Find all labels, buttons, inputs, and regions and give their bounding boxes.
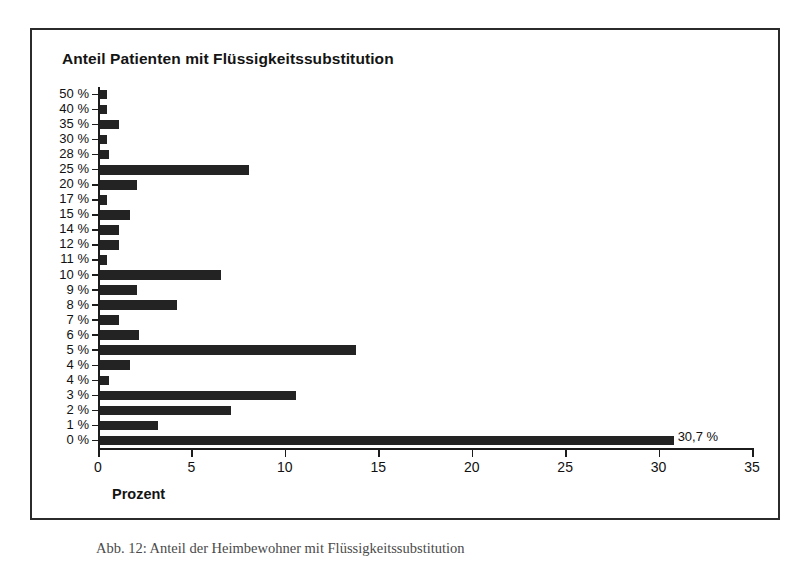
bar — [100, 255, 107, 265]
bar-row: 15 % — [98, 207, 752, 222]
category-label: 50 % — [59, 86, 89, 101]
category-label: 20 % — [59, 176, 89, 191]
category-tick — [92, 289, 98, 291]
chart-frame: Anteil Patienten mit Flüssigkeitssubstit… — [30, 28, 780, 520]
category-label: 7 % — [67, 312, 89, 327]
category-label: 11 % — [60, 251, 89, 266]
value-tick — [285, 450, 287, 457]
bar — [100, 436, 674, 446]
value-tick-label: 35 — [744, 459, 760, 475]
value-tick — [378, 450, 380, 457]
category-tick — [92, 380, 98, 382]
bar-row: 50 % — [98, 87, 752, 102]
bar — [100, 360, 130, 370]
bar — [100, 165, 249, 175]
value-tick — [752, 450, 754, 457]
bar — [100, 406, 231, 416]
value-tick-label: 20 — [464, 459, 480, 475]
category-label: 3 % — [67, 387, 89, 402]
value-tick — [472, 450, 474, 457]
category-label: 0 % — [67, 432, 89, 447]
category-tick — [92, 139, 98, 141]
category-label: 5 % — [67, 342, 89, 357]
x-axis-title: Prozent — [112, 486, 165, 502]
category-tick — [92, 365, 98, 367]
category-label: 14 % — [59, 221, 89, 236]
bar-row: 4 % — [98, 358, 752, 373]
category-label: 6 % — [67, 327, 89, 342]
category-label: 4 % — [67, 357, 89, 372]
category-tick — [92, 229, 98, 231]
category-tick — [92, 259, 98, 261]
category-label: 12 % — [59, 236, 89, 251]
value-tick — [565, 450, 567, 457]
figure-caption: Abb. 12: Anteil der Heimbewohner mit Flü… — [96, 540, 756, 557]
bar-row: 0 %30,7 % — [98, 433, 752, 448]
category-tick — [92, 124, 98, 126]
category-label: 10 % — [59, 267, 89, 282]
bar-row: 7 % — [98, 313, 752, 328]
bar-row: 20 % — [98, 177, 752, 192]
bar — [100, 105, 107, 115]
category-tick — [92, 214, 98, 216]
bar-row: 12 % — [98, 237, 752, 252]
value-tick-label: 5 — [188, 459, 196, 475]
bar-data-label: 30,7 % — [678, 429, 718, 444]
bar — [100, 120, 119, 130]
category-label: 2 % — [67, 402, 89, 417]
category-tick — [92, 94, 98, 96]
value-tick-label: 10 — [277, 459, 293, 475]
value-tick — [191, 450, 193, 457]
bar — [100, 345, 356, 355]
bar — [100, 270, 221, 280]
category-label: 35 % — [59, 116, 89, 131]
bar — [100, 300, 177, 310]
category-tick — [92, 274, 98, 276]
category-label: 28 % — [59, 146, 89, 161]
category-tick — [92, 425, 98, 427]
bar-row: 30 % — [98, 132, 752, 147]
category-tick — [92, 109, 98, 111]
bar-row: 25 % — [98, 162, 752, 177]
bar-row: 10 % — [98, 268, 752, 283]
category-tick — [92, 244, 98, 246]
category-label: 4 % — [67, 372, 89, 387]
chart-title: Anteil Patienten mit Flüssigkeitssubstit… — [62, 50, 394, 68]
bar — [100, 330, 139, 340]
category-label: 40 % — [59, 101, 89, 116]
category-tick — [92, 199, 98, 201]
bar — [100, 150, 109, 160]
value-tick — [98, 450, 100, 457]
bar-row: 28 % — [98, 147, 752, 162]
bar-row: 1 % — [98, 418, 752, 433]
bar — [100, 180, 137, 190]
category-label: 30 % — [59, 131, 89, 146]
bar-row: 17 % — [98, 192, 752, 207]
bar-row: 5 % — [98, 343, 752, 358]
category-tick — [92, 395, 98, 397]
bar — [100, 90, 107, 100]
bar-row: 2 % — [98, 403, 752, 418]
category-tick — [92, 410, 98, 412]
category-tick — [92, 319, 98, 321]
bar-row: 4 % — [98, 373, 752, 388]
bar-row: 11 % — [98, 252, 752, 267]
category-label: 9 % — [67, 282, 89, 297]
category-label: 8 % — [67, 297, 89, 312]
category-tick — [92, 154, 98, 156]
bar — [100, 195, 107, 205]
value-tick-label: 15 — [370, 459, 386, 475]
category-label: 15 % — [59, 206, 89, 221]
value-tick — [659, 450, 661, 457]
bar — [100, 210, 130, 220]
category-tick — [92, 440, 98, 442]
bar-row: 14 % — [98, 222, 752, 237]
category-tick — [92, 169, 98, 171]
bar — [100, 135, 107, 145]
bar — [100, 225, 119, 235]
category-tick — [92, 184, 98, 186]
bar — [100, 285, 137, 295]
category-tick — [92, 349, 98, 351]
bar — [100, 315, 119, 325]
category-label: 17 % — [59, 191, 89, 206]
